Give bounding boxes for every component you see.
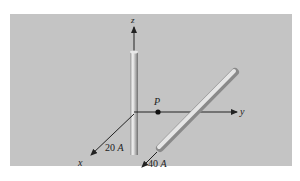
point-p xyxy=(155,109,160,114)
magnetic-field-diagram: z y x P 20 A 40 A xyxy=(0,0,300,181)
current-label-40: 40 A xyxy=(148,158,168,169)
z-axis-label: z xyxy=(130,15,135,25)
diagonal-wire xyxy=(142,71,235,167)
point-p-label: P xyxy=(153,96,160,107)
current-label-20: 20 A xyxy=(105,142,125,153)
vertical-wire xyxy=(130,51,138,156)
svg-text:40 A: 40 A xyxy=(148,158,168,169)
svg-text:20 A: 20 A xyxy=(105,142,125,153)
x-axis-label: x xyxy=(77,157,83,168)
y-axis-label: y xyxy=(239,106,245,117)
